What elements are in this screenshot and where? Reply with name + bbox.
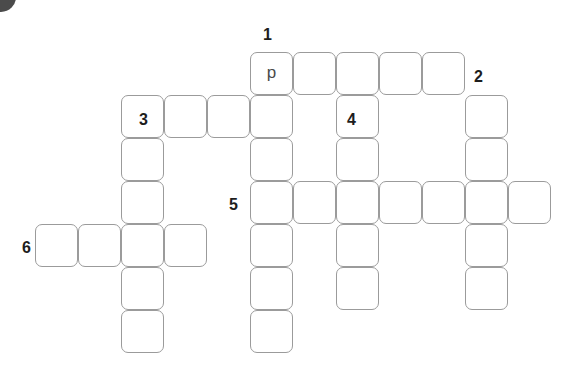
crossword-cell[interactable] [250, 95, 293, 138]
crossword-cell[interactable]: p [250, 52, 293, 95]
crossword-cell[interactable] [508, 181, 551, 224]
crossword-cell[interactable] [465, 224, 508, 267]
crossword-cell[interactable] [336, 138, 379, 181]
crossword-cell[interactable] [35, 224, 78, 267]
crossword-cell[interactable] [336, 52, 379, 95]
clue-number: 4 [347, 112, 356, 128]
crossword-cell[interactable] [121, 310, 164, 353]
crossword-cell[interactable] [164, 95, 207, 138]
crossword-cell[interactable] [164, 224, 207, 267]
crossword-cell[interactable] [250, 138, 293, 181]
crossword-cell[interactable] [121, 181, 164, 224]
clue-number: 3 [139, 112, 148, 128]
crossword-cell[interactable] [336, 95, 379, 138]
crossword-cell[interactable] [250, 181, 293, 224]
clue-number: 1 [263, 27, 272, 43]
crossword-cell[interactable] [78, 224, 121, 267]
crossword-cell[interactable] [465, 267, 508, 310]
crossword-cell[interactable] [293, 181, 336, 224]
clue-number: 2 [474, 69, 483, 85]
crossword-cell[interactable] [465, 138, 508, 181]
crossword-cell[interactable] [465, 181, 508, 224]
crossword-cell[interactable] [336, 224, 379, 267]
crossword-cell[interactable] [422, 52, 465, 95]
crossword-cell[interactable] [336, 267, 379, 310]
crossword-cell[interactable] [379, 52, 422, 95]
crossword-cell[interactable] [293, 52, 336, 95]
crossword-cell[interactable] [121, 138, 164, 181]
clue-number: 5 [229, 197, 238, 213]
crossword-cell[interactable] [207, 95, 250, 138]
clue-number: 6 [22, 240, 31, 256]
crossword-cell[interactable] [121, 224, 164, 267]
crossword-cell[interactable] [250, 267, 293, 310]
corner-circle-mark [0, 0, 16, 12]
crossword-cell[interactable] [121, 267, 164, 310]
crossword-cell[interactable] [336, 181, 379, 224]
crossword-puzzle: p 123456 [0, 0, 564, 372]
crossword-cell[interactable] [250, 224, 293, 267]
crossword-cell[interactable] [379, 181, 422, 224]
crossword-cell[interactable] [250, 310, 293, 353]
crossword-cell[interactable] [465, 95, 508, 138]
crossword-cell[interactable] [422, 181, 465, 224]
